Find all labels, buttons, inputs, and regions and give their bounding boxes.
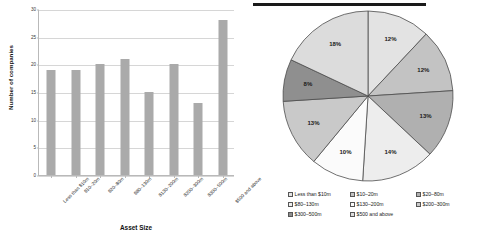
legend-item: $500 and above	[350, 210, 416, 219]
figure-root: 051015202530 Less than $10m$10–20m$20–80…	[0, 0, 479, 241]
bar	[218, 20, 227, 175]
bar-x-axis-labels: Less than $10m$10–20m$20–80m$80–130m$130…	[38, 177, 234, 221]
bar-slot	[137, 10, 162, 175]
x-tick-label: $80–130m	[133, 177, 152, 196]
legend-item: $20–80m	[416, 190, 478, 199]
x-tick-label: $20–80m	[108, 177, 126, 195]
pie-legend: Less than $10m$10–20m$20–80m$80–130m$130…	[288, 190, 478, 219]
legend-swatch	[288, 202, 293, 207]
legend-swatch	[350, 202, 355, 207]
legend-label: $10–20m	[357, 192, 378, 197]
legend-label: $200–300m	[423, 202, 450, 207]
bar	[169, 64, 178, 175]
bar-slot	[186, 10, 211, 175]
pie-chart-panel: 12%12%13%14%10%13%8%18% Less than $10m$1…	[240, 0, 479, 241]
legend-label: $20–80m	[423, 192, 444, 197]
bar-x-axis-title: Asset Size	[38, 224, 234, 231]
legend-item: $80–130m	[288, 200, 350, 209]
legend-label: $80–130m	[295, 202, 319, 207]
x-tick-label: $200–300m	[183, 177, 204, 198]
y-tick-label: 0	[33, 174, 36, 179]
bar-slot	[39, 10, 64, 175]
bar-series	[39, 10, 234, 175]
legend-swatch	[416, 192, 421, 197]
legend-item: Less than $10m	[288, 190, 350, 199]
y-tick-label: 5	[33, 146, 36, 151]
pie-plot-area: 12%12%13%14%10%13%8%18%	[280, 8, 456, 184]
pie-slice-value-label: 14%	[385, 149, 398, 155]
pie-slice-value-label: 10%	[339, 149, 352, 155]
pie-slice-value-label: 13%	[307, 120, 320, 126]
legend-swatch	[350, 212, 355, 217]
legend-label: $130–200m	[357, 202, 384, 207]
bar-slot	[211, 10, 236, 175]
y-tick-label: 20	[31, 63, 36, 68]
bar	[145, 92, 154, 175]
legend-swatch	[350, 192, 355, 197]
bar-slot	[113, 10, 138, 175]
pie-slice-value-label: 12%	[385, 36, 398, 42]
y-tick-label: 25	[31, 35, 36, 40]
legend-swatch	[288, 192, 293, 197]
legend-item: $130–200m	[350, 200, 416, 209]
legend-label: Less than $10m	[295, 192, 331, 197]
legend-item: $200–300m	[416, 200, 478, 209]
y-tick-label: 15	[31, 91, 36, 96]
legend-label: $500 and above	[357, 212, 394, 217]
bar	[71, 70, 80, 175]
pie-slice-value-label: 8%	[304, 81, 313, 87]
bar-slot	[162, 10, 187, 175]
legend-label: $300–500m	[295, 212, 322, 217]
bar	[96, 64, 105, 175]
pie-slice-value-label: 13%	[420, 113, 433, 119]
pie-slice-value-label: 18%	[329, 41, 342, 47]
pie-svg: 12%12%13%14%10%13%8%18%	[280, 8, 456, 184]
legend-swatch	[288, 212, 293, 217]
legend-swatch	[416, 202, 421, 207]
legend-item: $10–20m	[350, 190, 416, 199]
legend-item: $300–500m	[288, 210, 350, 219]
x-tick-label: $300–500m	[208, 177, 229, 198]
bar-slot	[64, 10, 89, 175]
x-tick-label: $130–200m	[159, 177, 180, 198]
bar	[47, 70, 56, 175]
y-tick-label: 30	[31, 8, 36, 13]
bar	[194, 103, 203, 175]
y-tick-label: 10	[31, 118, 36, 123]
bar-chart-panel: 051015202530 Less than $10m$10–20m$20–80…	[0, 0, 240, 241]
pie-slice-value-label: 12%	[417, 67, 430, 73]
bar-slot	[88, 10, 113, 175]
bar-y-axis-title: Number of companies	[7, 23, 14, 133]
bar	[120, 59, 129, 175]
bar-plot-area: 051015202530	[38, 10, 234, 176]
